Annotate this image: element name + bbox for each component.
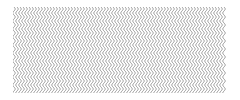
wavy-line (34, 7, 36, 93)
wavy-line (205, 7, 207, 93)
wavy-line (196, 7, 198, 93)
wavy-line (79, 7, 81, 93)
wavy-line (88, 7, 90, 93)
wavy-line (208, 7, 210, 93)
wavy-line (61, 7, 63, 93)
wavy-line (82, 7, 84, 93)
wavy-line (172, 7, 174, 93)
wavy-line (55, 7, 57, 93)
wave-pattern-graphic (13, 7, 227, 93)
wavy-line (121, 7, 123, 93)
wavy-line (28, 7, 30, 93)
wavy-line (109, 7, 111, 93)
wavy-line (181, 7, 183, 93)
wavy-line (49, 7, 51, 93)
wavy-line (22, 7, 24, 93)
wavy-line (76, 7, 78, 93)
wavy-line (37, 7, 39, 93)
wavy-line (133, 7, 135, 93)
wavy-line (145, 7, 147, 93)
wavy-line (19, 7, 21, 93)
wavy-line (157, 7, 159, 93)
wavy-line (115, 7, 117, 93)
wavy-line (175, 7, 177, 93)
wavy-line (52, 7, 54, 93)
wavy-line (70, 7, 72, 93)
wavy-line (112, 7, 114, 93)
wavy-line (184, 7, 186, 93)
wavy-line (220, 7, 222, 93)
wavy-line (190, 7, 192, 93)
wavy-line (154, 7, 156, 93)
wavy-line (223, 7, 225, 93)
wavy-line (43, 7, 45, 93)
wavy-line (46, 7, 48, 93)
wavy-line-pattern (13, 7, 227, 93)
wavy-line (124, 7, 126, 93)
wavy-line (217, 7, 219, 93)
wavy-line (214, 7, 216, 93)
wavy-line (94, 7, 96, 93)
wavy-line (40, 7, 42, 93)
wavy-line (178, 7, 180, 93)
wavy-line (13, 7, 15, 93)
wavy-line (100, 7, 102, 93)
wavy-line (58, 7, 60, 93)
wavy-line (151, 7, 153, 93)
wavy-line (193, 7, 195, 93)
wavy-line (31, 7, 33, 93)
wavy-line (163, 7, 165, 93)
wavy-line (169, 7, 171, 93)
wavy-line (85, 7, 87, 93)
wavy-line (106, 7, 108, 93)
wavy-line (16, 7, 18, 93)
wavy-line (67, 7, 69, 93)
wavy-line (160, 7, 162, 93)
wavy-line (166, 7, 168, 93)
wavy-line (187, 7, 189, 93)
wavy-line (148, 7, 150, 93)
wavy-line (64, 7, 66, 93)
wavy-line (139, 7, 141, 93)
wavy-line (142, 7, 144, 93)
wavy-line (118, 7, 120, 93)
wavy-line (136, 7, 138, 93)
wavy-line (199, 7, 201, 93)
wavy-line (127, 7, 129, 93)
wavy-line (202, 7, 204, 93)
wavy-line (211, 7, 213, 93)
wavy-line (103, 7, 105, 93)
wavy-line (73, 7, 75, 93)
wavy-line (130, 7, 132, 93)
wavy-line (25, 7, 27, 93)
wavy-line (97, 7, 99, 93)
wavy-line (91, 7, 93, 93)
